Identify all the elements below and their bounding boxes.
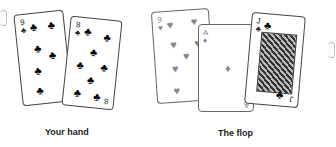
partial-card-edge-left [0, 10, 7, 26]
club-icon: ♣ [48, 50, 56, 62]
club-icon: ♣ [275, 89, 283, 101]
club-icon: ♣ [73, 87, 81, 99]
club-icon: ♣ [76, 59, 84, 71]
jack-face-artwork [256, 32, 297, 95]
heart-icon: ♥ [173, 85, 180, 96]
partial-card-edge-right [328, 42, 335, 58]
heart-icon: ♥ [190, 16, 197, 27]
card-rank-bottom: J [289, 94, 294, 102]
diamond-icon: ♦ [225, 63, 231, 74]
club-icon: ♣ [29, 21, 37, 33]
club-icon: ♣ [34, 65, 42, 77]
club-icon: ♣ [84, 26, 92, 38]
hand-card-8-clubs: 8 ♣ ♣ ♣ ♣ ♣ ♣ ♣ ♣ ♣ 8 [61, 16, 122, 111]
heart-icon: ♥ [170, 39, 177, 50]
club-icon: ♣ [90, 47, 98, 59]
flop-label: The flop [218, 128, 253, 138]
club-icon: ♣ [47, 20, 55, 32]
flop-card-jack-clubs: J ♣ ♣ ♣ J [244, 12, 306, 108]
heart-icon: ♥ [158, 24, 163, 32]
heart-icon: ♥ [172, 63, 179, 74]
club-icon: ♣ [33, 43, 41, 55]
heart-icon: ♥ [183, 51, 190, 62]
club-icon: ♣ [100, 62, 108, 74]
heart-icon: ♥ [166, 20, 173, 31]
club-icon: ♣ [36, 85, 44, 97]
card-rank-bottom: 8 [103, 96, 108, 104]
hand-label: Your hand [45, 127, 89, 137]
diamond-icon: ♦ [203, 37, 207, 45]
club-icon: ♣ [75, 29, 81, 38]
club-icon: ♣ [103, 32, 111, 44]
club-icon: ♣ [87, 75, 95, 87]
club-icon: ♣ [21, 27, 27, 36]
club-icon: ♣ [93, 91, 101, 103]
club-icon: ♣ [263, 20, 271, 32]
